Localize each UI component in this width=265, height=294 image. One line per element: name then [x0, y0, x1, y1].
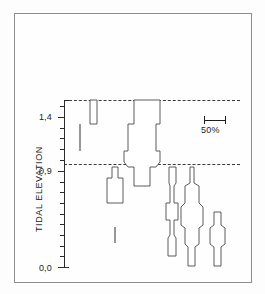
- scale-bar: 50%: [200, 116, 240, 138]
- scale-bar-line: [204, 120, 226, 121]
- figure-panel: C. bisinuatus C. proteus F. citerosum B.…: [0, 0, 265, 294]
- y-tick-label-0-0: 0,0: [39, 263, 52, 273]
- y-tick-label-0-9: 0,9: [39, 166, 52, 176]
- scale-bar-label: 50%: [201, 125, 220, 135]
- scale-bar-cap-left: [204, 116, 205, 124]
- species-label-row: C. bisinuatus C. proteus F. citerosum B.…: [0, 0, 265, 100]
- scale-bar-cap-right: [225, 116, 226, 124]
- y-tick-label-1-4: 1,4: [39, 112, 52, 122]
- y-axis-tick-labels: 1,4 0,9 0,0: [0, 100, 60, 268]
